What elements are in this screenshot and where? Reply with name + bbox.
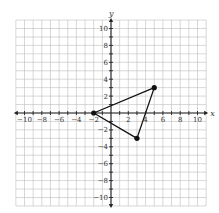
x-tick-label: 2 [126, 116, 130, 124]
y-tick-label: 2 [104, 93, 108, 101]
y-tick-label: −4 [98, 143, 109, 151]
y-tick-label: 8 [104, 42, 108, 50]
x-tick-label: −4 [71, 116, 82, 124]
y-axis-label: y [108, 9, 114, 18]
y-tick-label: −2 [98, 126, 108, 134]
y-tick-label: 4 [104, 76, 109, 84]
vertex-point [91, 110, 96, 115]
y-tick-label: 6 [104, 59, 109, 67]
x-tick-label: 10 [193, 116, 202, 124]
axes [14, 18, 208, 208]
x-axis-label: x [210, 109, 215, 118]
coordinate-plane: −10−8−6−4−2246810−10−8−6−4−2246810 x y [0, 0, 219, 213]
x-tick-label: −8 [37, 116, 47, 124]
vertex-point [152, 85, 157, 90]
y-tick-label: −6 [98, 160, 109, 168]
x-tick-label: −10 [17, 116, 32, 124]
y-tick-label: −8 [98, 177, 108, 185]
y-tick-label: −10 [93, 194, 108, 202]
x-tick-label: −6 [54, 116, 65, 124]
x-tick-label: 8 [178, 116, 182, 124]
vertex-point [134, 136, 139, 141]
x-tick-label: −2 [89, 116, 99, 124]
y-tick-label: 10 [99, 25, 108, 33]
x-tick-label: 6 [161, 116, 166, 124]
